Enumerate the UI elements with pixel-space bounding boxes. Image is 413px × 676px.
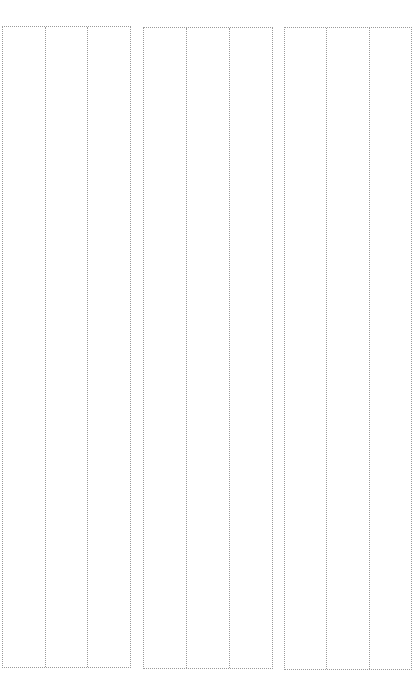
ruled-panel-1: [2, 26, 131, 668]
ruled-panel-2: [143, 27, 273, 669]
panel-1-column-3: [88, 27, 130, 667]
panel-1-column-2: [46, 27, 89, 667]
panel-3-column-2: [327, 28, 369, 669]
panel-1-column-1: [3, 27, 46, 667]
panel-2-column-3: [230, 28, 272, 668]
panel-3-column-3: [370, 28, 411, 669]
panel-2-column-2: [187, 28, 230, 668]
panel-2-column-1: [144, 28, 187, 668]
ruled-panel-3: [284, 27, 412, 670]
panel-3-column-1: [285, 28, 327, 669]
